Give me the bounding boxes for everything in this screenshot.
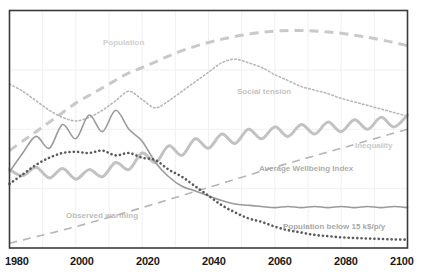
series-label-population-below-15k: Population below 15 k$/p/y — [283, 222, 385, 231]
x-tick-label-2060: 2060 — [268, 255, 292, 267]
series-label-average-wellbeing-index: Average Wellbeing Index — [259, 164, 353, 173]
x-tick-label-2080: 2080 — [334, 255, 358, 267]
x-tick-label-2100: 2100 — [390, 255, 414, 267]
x-tick-label-2020: 2020 — [136, 255, 160, 267]
series-label-social-tension: Social tension — [237, 87, 291, 96]
x-tick-label-2000: 2000 — [70, 255, 94, 267]
chart-container: 1980 2000 2020 2040 2060 2080 2100 Popul… — [0, 0, 421, 278]
series-label-population: Population — [103, 38, 144, 47]
series-label-observed-warming: Observed warming — [66, 211, 138, 220]
chart-plot-area — [0, 0, 421, 278]
x-tick-label-2040: 2040 — [202, 255, 226, 267]
x-tick-label-1980: 1980 — [5, 255, 29, 267]
series-label-inequality: Inequality — [355, 141, 392, 150]
